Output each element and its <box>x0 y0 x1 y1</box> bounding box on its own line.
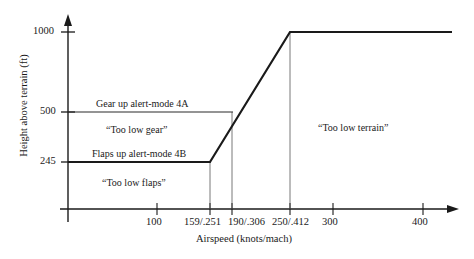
y-tick-label-500: 500 <box>40 105 56 116</box>
annotation-flaps-up-alert: Flaps up alert-mode 4B <box>92 148 186 159</box>
y-tick-label-245: 245 <box>40 155 56 166</box>
x-tick-label-250: 250/.412 <box>272 216 309 227</box>
x-tick-label-100: 100 <box>146 216 162 227</box>
chart-container: Height above terrain (ft) 1000 500 245 1… <box>0 0 474 259</box>
y-axis-arrow-icon <box>64 14 72 26</box>
x-tick-label-159: 159/.251 <box>184 216 221 227</box>
y-axis-title: Height above terrain (ft) <box>18 41 29 171</box>
annotation-too-low-flaps: “Too low flaps” <box>102 177 166 188</box>
x-tick-label-300: 300 <box>322 216 338 227</box>
x-tick-label-190: 190/.306 <box>228 216 265 227</box>
x-tick-label-400: 400 <box>412 216 428 227</box>
x-axis-arrow-icon <box>447 205 459 213</box>
series-mode4b-boundary <box>68 32 452 162</box>
y-tick-label-1000: 1000 <box>33 25 54 36</box>
annotation-too-low-terrain: “Too low terrain” <box>318 122 388 133</box>
annotation-too-low-gear: “Too low gear” <box>106 124 168 135</box>
annotation-gear-up-alert: Gear up alert-mode 4A <box>96 98 188 109</box>
x-axis-title: Airspeed (knots/mach) <box>196 233 292 244</box>
